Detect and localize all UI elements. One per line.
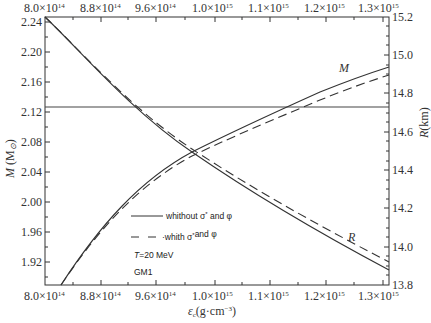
r-curve-label: R xyxy=(347,230,356,244)
svg-text:1.1×1015: 1.1×1015 xyxy=(248,1,289,15)
y-tick-labels: 2.24 2.20 2.16 2.12 2.08 2.04 2.00 1.96 … xyxy=(21,15,42,269)
svg-text:1.92: 1.92 xyxy=(21,255,42,269)
svg-text:1.2×1015: 1.2×1015 xyxy=(304,1,345,15)
svg-text:14.8: 14.8 xyxy=(392,86,413,100)
svg-text:15.2: 15.2 xyxy=(392,10,413,24)
svg-text:2.08: 2.08 xyxy=(21,135,42,149)
y2-tick-labels: 15.2 15.0 14.8 14.6 14.4 14.2 14.0 13.8 xyxy=(392,10,413,292)
svg-text:8.0×1014: 8.0×1014 xyxy=(24,1,65,15)
y-tick-marks xyxy=(45,22,50,277)
svg-text:8.8×1014: 8.8×1014 xyxy=(80,289,121,303)
svg-text:2.12: 2.12 xyxy=(21,105,42,119)
svg-text:14.4: 14.4 xyxy=(392,163,413,177)
series-r-solid xyxy=(45,17,389,270)
model-annotation: GM1 xyxy=(134,267,153,277)
x-axis-label: εc(g·cm−3) xyxy=(188,304,236,319)
svg-text:8.0×1014: 8.0×1014 xyxy=(24,289,65,303)
y2-axis-label: R(km) xyxy=(417,107,431,139)
y2-tick-marks xyxy=(384,26,389,275)
svg-text:14.0: 14.0 xyxy=(392,240,413,254)
series-m-solid xyxy=(61,67,389,285)
svg-text:13.8: 13.8 xyxy=(392,278,413,292)
svg-text:1.2×1015: 1.2×1015 xyxy=(304,289,345,303)
m-curve-label: M xyxy=(338,61,350,75)
temperature-annotation: T=20 MeV xyxy=(134,250,174,260)
svg-text:15.0: 15.0 xyxy=(392,48,413,62)
legend-dashed-label: ·whith σ*and φ xyxy=(162,229,217,242)
svg-text:14.6: 14.6 xyxy=(392,125,413,139)
chart: M R whithout σ* and φ ·whith σ*and φ T=2… xyxy=(0,0,431,323)
svg-text:14.2: 14.2 xyxy=(392,201,413,215)
y-axis-label: M (M⊙) xyxy=(3,139,18,179)
svg-text:1.96: 1.96 xyxy=(21,225,42,239)
svg-text:2.16: 2.16 xyxy=(21,75,42,89)
svg-text:1.0×1015: 1.0×1015 xyxy=(192,289,233,303)
x-tick-labels-bottom: 8.0×1014 8.8×1014 9.6×1014 1.0×1015 1.1×… xyxy=(24,289,399,303)
plot-frame xyxy=(45,17,389,285)
legend-solid-label: whithout σ* and φ xyxy=(165,211,233,221)
svg-text:9.6×1014: 9.6×1014 xyxy=(135,1,176,15)
svg-text:1.0×1015: 1.0×1015 xyxy=(192,1,233,15)
svg-text:2.00: 2.00 xyxy=(21,195,42,209)
svg-text:2.04: 2.04 xyxy=(21,165,42,179)
svg-text:2.24: 2.24 xyxy=(21,15,42,29)
svg-text:8.8×1014: 8.8×1014 xyxy=(80,1,121,15)
svg-text:9.6×1014: 9.6×1014 xyxy=(135,289,176,303)
x-tick-labels-top: 8.0×1014 8.8×1014 9.6×1014 1.0×1015 1.1×… xyxy=(24,1,399,15)
svg-text:1.1×1015: 1.1×1015 xyxy=(248,289,289,303)
x-tick-marks xyxy=(73,17,383,285)
svg-text:2.20: 2.20 xyxy=(21,45,42,59)
